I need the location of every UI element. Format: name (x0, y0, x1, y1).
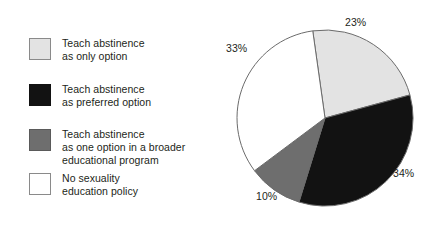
legend-item-label: Teach abstinence as preferred option (62, 83, 151, 109)
legend-swatch-icon (29, 173, 51, 195)
legend-item-label: No sexuality education policy (62, 172, 138, 198)
slice-value-label: 33% (226, 42, 247, 54)
pie-chart-figure: Teach abstinence as only option Teach ab… (0, 0, 442, 228)
legend-item-label: Teach abstinence as one option in a broa… (62, 128, 185, 168)
slice-value-label: 23% (345, 16, 366, 28)
legend-item-abstinence-one-option: Teach abstinence as one option in a broa… (29, 128, 185, 168)
legend-swatch-icon (29, 129, 51, 151)
legend-item-label: Teach abstinence as only option (62, 37, 145, 63)
pie-chart-svg (221, 0, 442, 228)
legend-item-abstinence-preferred: Teach abstinence as preferred option (29, 83, 151, 109)
slice-value-label: 10% (256, 190, 277, 202)
legend-swatch-icon (29, 38, 51, 60)
legend-item-abstinence-only: Teach abstinence as only option (29, 37, 145, 63)
chart-legend: Teach abstinence as only option Teach ab… (0, 0, 221, 228)
legend-item-no-policy: No sexuality education policy (29, 172, 138, 198)
pie-chart-plot: 23% 34% 10% 33% (221, 0, 442, 228)
legend-swatch-icon (29, 84, 51, 106)
slice-value-label: 34% (393, 167, 414, 179)
